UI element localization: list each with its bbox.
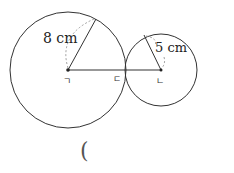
tangent-point-label: ㄷ — [113, 74, 121, 84]
big-center-dot — [66, 68, 70, 72]
big-radius-label: 8 cm — [43, 30, 77, 46]
small-center-label: ㄴ — [156, 76, 164, 86]
answer-parenthesis: ( — [80, 138, 89, 163]
big-center-label: ㄱ — [63, 76, 71, 86]
small-radius-label: 5 cm — [155, 40, 187, 55]
two-tangent-circles-diagram: 8 cm 5 cm ㄱ ㄷ ㄴ — [0, 0, 234, 173]
small-center-dot — [160, 69, 163, 72]
